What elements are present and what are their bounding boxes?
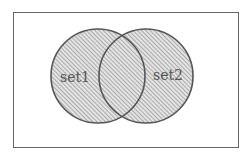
venn-diagram: set1 set2 xyxy=(0,0,250,159)
set2-label: set2 xyxy=(153,67,183,83)
set1-label: set1 xyxy=(60,69,90,85)
